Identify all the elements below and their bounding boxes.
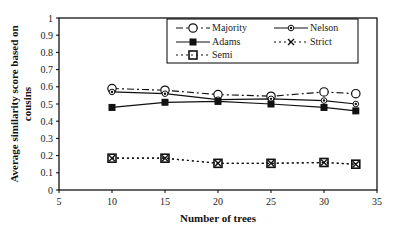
y-tick-label: 0.6	[41, 81, 54, 92]
data-point-nelson	[353, 101, 359, 107]
legend-label: Nelson	[310, 22, 338, 33]
y-tick-label: 0.1	[41, 167, 54, 178]
y-tick-label: 1	[48, 13, 53, 24]
legend-label: Majority	[212, 22, 247, 33]
data-point-adams	[109, 104, 116, 111]
legend-label: Adams	[212, 36, 240, 47]
line-chart: 00.10.20.30.40.50.60.70.80.91 5101520253…	[0, 0, 393, 235]
data-point-adams	[215, 98, 222, 105]
y-tick-label: 0.5	[41, 99, 54, 110]
x-tick-label: 35	[372, 196, 382, 207]
y-tick-label: 0.9	[41, 30, 54, 41]
x-tick-label: 25	[266, 196, 276, 207]
y-axis-title-line2: cousins	[21, 86, 33, 121]
y-tick-label: 0.7	[41, 64, 54, 75]
data-point-nelson	[162, 91, 168, 97]
x-tick-label: 10	[107, 196, 117, 207]
y-tick-label: 0	[48, 185, 53, 196]
x-axis-title: Number of trees	[180, 212, 257, 224]
data-point-nelson	[109, 89, 115, 95]
legend-label: Strict	[310, 36, 332, 47]
legend-label: Semi	[212, 49, 233, 60]
y-tick-label: 0.2	[41, 150, 54, 161]
data-point-majority	[352, 89, 360, 97]
y-tick-label: 0.3	[41, 133, 54, 144]
legend-marker-nelson	[288, 25, 294, 31]
data-point-adams	[321, 104, 328, 111]
data-point-adams	[162, 99, 169, 106]
x-tick-label: 30	[319, 196, 329, 207]
data-point-adams	[268, 101, 275, 108]
x-tick-label: 5	[57, 196, 62, 207]
x-tick-label: 15	[160, 196, 170, 207]
x-tick-label: 20	[213, 196, 223, 207]
legend-marker-adams	[190, 39, 197, 46]
legend-marker-majority	[189, 24, 197, 32]
y-tick-label: 0.4	[41, 116, 54, 127]
y-tick-label: 0.8	[41, 47, 54, 58]
data-point-nelson	[321, 98, 327, 104]
data-point-majority	[320, 88, 328, 96]
legend: MajorityNelsonAdamsStrictSemi	[167, 19, 358, 63]
data-point-adams	[352, 107, 359, 114]
y-axis-title-line1: Average similarity score based on	[8, 25, 20, 182]
